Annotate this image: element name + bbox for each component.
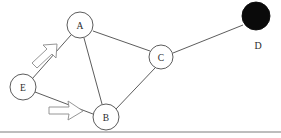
node-b-label: B [103,113,109,123]
node-d[interactable]: D [242,2,270,51]
node-d-circle[interactable] [242,2,270,30]
node-e[interactable]: E [10,74,36,100]
edge-group [32,25,243,114]
node-c[interactable]: C [149,45,173,69]
edge-a-c [93,31,150,51]
node-b[interactable]: B [93,104,119,130]
node-e-label: E [20,83,26,93]
node-c-label: C [158,53,164,63]
node-a[interactable]: A [67,12,93,38]
edge-a-b [84,38,102,104]
annotation-arrow-group [32,44,83,120]
node-a-label: A [77,21,84,31]
graph-diagram: A B C D E [0,0,281,138]
diagram-canvas: A B C D E [0,0,281,138]
node-d-label: D [254,40,261,51]
edge-b-c [116,68,155,109]
edge-c-d [173,25,243,53]
